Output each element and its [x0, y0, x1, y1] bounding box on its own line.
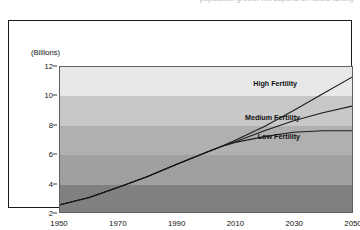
series-lines — [60, 67, 352, 212]
y-tick-mark-4 — [53, 183, 57, 184]
line-medium-fertility — [60, 106, 352, 205]
y-axis-unit-label: (Billions) — [31, 48, 60, 57]
y-tick-label-10: 10 — [45, 91, 53, 100]
y-tick-mark-6 — [53, 154, 57, 155]
line-high-fertility — [60, 77, 352, 205]
plot-area — [59, 66, 353, 213]
y-tick-mark-8 — [53, 124, 57, 125]
x-tick-label-1990: 1990 — [168, 219, 185, 228]
series-label-low-fertility: Low Fertility — [258, 131, 300, 140]
y-tick-mark-10 — [53, 95, 57, 96]
series-label-medium-fertility: Medium Fertility — [245, 112, 300, 121]
line-low-fertility — [60, 131, 352, 205]
x-tick-label-2050: 2050 — [344, 219, 360, 228]
series-label-high-fertility: High Fertility — [253, 78, 297, 87]
cut-off-caption-text: population growth will depend on future … — [0, 0, 360, 3]
figure-border: (Billions) 24681012 19501970199020102030… — [8, 20, 352, 208]
y-tick-mark-2 — [53, 213, 57, 214]
x-tick-label-1970: 1970 — [109, 219, 126, 228]
x-tick-label-2010: 2010 — [227, 219, 244, 228]
x-tick-label-1950: 1950 — [50, 219, 67, 228]
chart-figure: population growth will depend on future … — [0, 0, 360, 230]
x-tick-label-2030: 2030 — [286, 219, 303, 228]
y-tick-label-12: 12 — [45, 62, 53, 71]
y-tick-mark-12 — [53, 66, 57, 67]
